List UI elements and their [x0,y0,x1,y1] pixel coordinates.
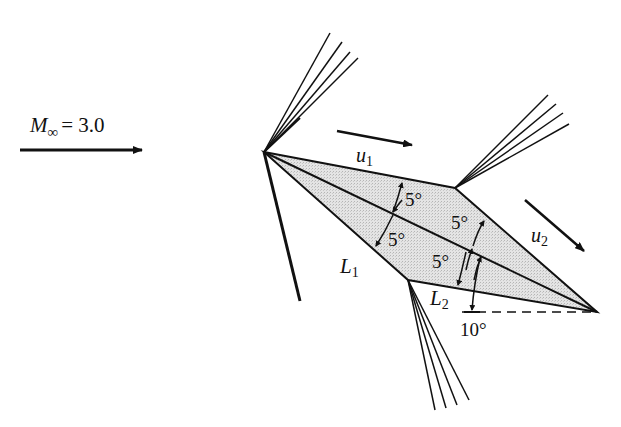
diamond-airfoil-diagram: M∞= 3.0 5° 5° 5° 5 [0,0,621,427]
freestream-mach-label: M∞= 3.0 [29,113,105,140]
leading-edge-upper-fan-icon [264,33,358,152]
u2-label: u2 [531,224,548,249]
u1-label: u1 [356,144,373,169]
angle-label-attack: 10° [460,319,487,340]
L1-label: L1 [339,254,359,280]
upper-expansion-fan-icon [455,95,569,188]
angle-label-upper-rear: 5° [451,212,468,233]
angle-label-upper-front: 5° [405,189,422,210]
u1-arrow [337,131,412,145]
angle-label-lower-front: 5° [388,229,405,250]
L2-label: L2 [429,286,449,312]
angle-label-lower-rear: 5° [432,251,449,272]
